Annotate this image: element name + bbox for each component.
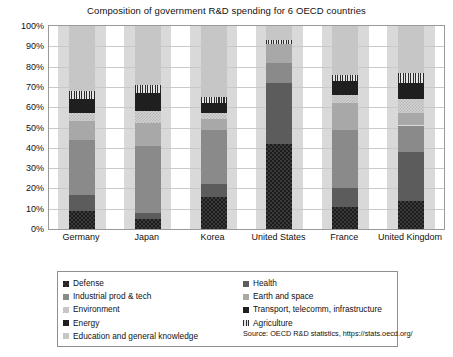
- bar-segment-earth[interactable]: [266, 44, 292, 62]
- bar-segment-earth[interactable]: [201, 119, 227, 129]
- bar-germany[interactable]: [69, 26, 95, 229]
- y-axis-tick-label: 0%: [0, 224, 44, 234]
- bar-japan[interactable]: [135, 26, 161, 229]
- chart-title: Composition of government R&D spending f…: [0, 5, 453, 16]
- legend-item-label: Industrial prod & tech: [73, 290, 151, 303]
- bar-united-kingdom[interactable]: [398, 26, 424, 229]
- bar-segment-environment[interactable]: [69, 113, 95, 121]
- y-axis-tick-label: 40%: [0, 143, 44, 153]
- legend-item[interactable]: Energy: [63, 317, 223, 330]
- bar-segment-environment[interactable]: [201, 113, 227, 119]
- x-axis-tick-label: Korea: [180, 232, 246, 243]
- legend-item[interactable]: Health: [243, 277, 395, 290]
- bar-segment-education[interactable]: [135, 26, 161, 85]
- x-axis: GermanyJapanKoreaUnited StatesFranceUnit…: [48, 232, 445, 266]
- legend-swatch-icon: [63, 294, 69, 300]
- legend-item-label: Earth and space: [253, 290, 313, 303]
- legend: DefenseIndustrial prod & techEnvironment…: [57, 271, 398, 347]
- bar-segment-transport[interactable]: [398, 83, 424, 99]
- bar-segment-earth[interactable]: [69, 121, 95, 139]
- plot-area: [48, 25, 445, 230]
- legend-item-label: Transport, telecomm, infrastructure: [253, 303, 382, 316]
- legend-item[interactable]: Industrial prod & tech: [63, 290, 223, 303]
- bar-france[interactable]: [332, 26, 358, 229]
- legend-column-left: DefenseIndustrial prod & techEnvironment…: [63, 277, 223, 343]
- bar-segment-industrial[interactable]: [69, 140, 95, 195]
- bar-segment-defense[interactable]: [398, 201, 424, 229]
- legend-swatch-icon: [63, 320, 69, 326]
- legend-item[interactable]: Environment: [63, 303, 223, 316]
- bar-segment-education[interactable]: [69, 26, 95, 91]
- y-axis-tick-label: 30%: [0, 163, 44, 173]
- y-axis-tick-label: 10%: [0, 204, 44, 214]
- bar-united-states[interactable]: [266, 26, 292, 229]
- bar-segment-environment[interactable]: [398, 99, 424, 113]
- bar-segment-agriculture[interactable]: [332, 75, 358, 81]
- bar-segment-defense[interactable]: [266, 144, 292, 229]
- bar-segment-health[interactable]: [266, 83, 292, 144]
- source-note: Source: OECD R&D statistics, https://sta…: [243, 329, 395, 338]
- legend-item-label: Health: [253, 277, 277, 290]
- y-axis-tick-label: 50%: [0, 123, 44, 133]
- bar-segment-health[interactable]: [332, 188, 358, 206]
- bar-segment-earth[interactable]: [332, 103, 358, 129]
- bar-segment-education[interactable]: [201, 26, 227, 97]
- bar-segment-health[interactable]: [201, 184, 227, 196]
- bar-segment-education[interactable]: [398, 26, 424, 73]
- bar-segment-health[interactable]: [135, 213, 161, 219]
- bars-layer: [49, 26, 444, 229]
- chart-container: Composition of government R&D spending f…: [0, 0, 453, 357]
- legend-swatch-icon: [243, 294, 249, 300]
- bar-segment-industrial[interactable]: [266, 63, 292, 83]
- y-axis-tick-label: 70%: [0, 82, 44, 92]
- y-axis-tick-label: 60%: [0, 102, 44, 112]
- bar-segment-industrial[interactable]: [332, 130, 358, 189]
- legend-swatch-icon: [63, 307, 69, 313]
- y-axis-tick-label: 80%: [0, 62, 44, 72]
- y-axis-tick-label: 90%: [0, 41, 44, 51]
- bar-korea[interactable]: [201, 26, 227, 229]
- legend-swatch-icon: [63, 281, 69, 287]
- bar-segment-defense[interactable]: [69, 211, 95, 229]
- bar-segment-education[interactable]: [266, 26, 292, 40]
- x-axis-tick-label: France: [311, 232, 377, 243]
- legend-swatch-icon: [243, 307, 249, 313]
- y-axis-tick-label: 100%: [0, 21, 44, 31]
- bar-segment-transport[interactable]: [332, 81, 358, 95]
- bar-segment-earth[interactable]: [135, 123, 161, 145]
- x-axis-tick-label: Japan: [114, 232, 180, 243]
- bar-segment-transport[interactable]: [135, 93, 161, 111]
- bar-segment-industrial[interactable]: [398, 126, 424, 152]
- bar-segment-environment[interactable]: [332, 95, 358, 103]
- legend-item[interactable]: Defense: [63, 277, 223, 290]
- legend-item[interactable]: Transport, telecomm, infrastructure: [243, 303, 395, 316]
- legend-item[interactable]: Agriculture: [243, 317, 395, 330]
- y-axis: 0%10%20%30%40%50%60%70%80%90%100%: [0, 25, 44, 230]
- bar-segment-earth[interactable]: [398, 113, 424, 125]
- bar-segment-agriculture[interactable]: [398, 73, 424, 83]
- bar-segment-agriculture[interactable]: [201, 97, 227, 103]
- x-axis-tick-label: United Kingdom: [377, 232, 443, 243]
- legend-item-label: Environment: [73, 303, 120, 316]
- bar-segment-industrial[interactable]: [135, 146, 161, 213]
- bar-segment-defense[interactable]: [332, 207, 358, 229]
- bar-segment-agriculture[interactable]: [69, 91, 95, 99]
- bar-segment-agriculture[interactable]: [266, 40, 292, 44]
- legend-item-label: Energy: [73, 317, 99, 330]
- legend-item-label: Agriculture: [253, 317, 293, 330]
- bar-segment-industrial[interactable]: [201, 130, 227, 185]
- bar-segment-defense[interactable]: [201, 197, 227, 229]
- x-axis-tick-label: Germany: [48, 232, 114, 243]
- bar-segment-transport[interactable]: [69, 99, 95, 113]
- legend-item-label: Defense: [73, 277, 104, 290]
- bar-segment-health[interactable]: [398, 152, 424, 201]
- bar-segment-health[interactable]: [69, 195, 95, 211]
- bar-segment-agriculture[interactable]: [135, 85, 161, 93]
- legend-item[interactable]: Earth and space: [243, 290, 395, 303]
- bar-segment-environment[interactable]: [135, 111, 161, 123]
- bar-segment-defense[interactable]: [135, 219, 161, 229]
- legend-swatch-icon: [243, 320, 249, 326]
- bar-segment-transport[interactable]: [201, 103, 227, 113]
- legend-item[interactable]: Education and general knowledge: [63, 330, 223, 343]
- bar-segment-education[interactable]: [332, 26, 358, 75]
